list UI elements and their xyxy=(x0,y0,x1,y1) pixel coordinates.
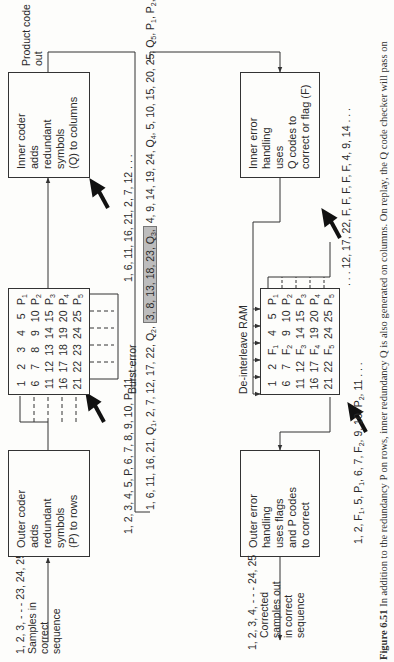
matrix-row: 1617F41920P4 xyxy=(307,291,321,392)
outer-error-handling-box: Outer error handling uses flags and P co… xyxy=(240,450,320,557)
input-sequence: 1, 2, 3, - - - 23, 24, 25 xyxy=(14,594,26,654)
matrix-row: 12345P1 xyxy=(14,291,28,392)
output-label: Corrected samples out in correct sequenc… xyxy=(258,581,306,638)
stream-before: 1, 6, 11, 16, 21, Q1, 2, 7, 12, 17, 22, … xyxy=(144,326,156,510)
matrix-row: 2122F52425P5 xyxy=(321,291,335,392)
after-deinterleave-sequence: 1, 2, F1, 5, P1, 6, 7, F2, 9, 10, P2, 11… xyxy=(352,362,364,544)
matrix-row: 678910P2 xyxy=(28,291,42,392)
product-code-out-label: Product code out xyxy=(20,4,44,66)
matrix-row: 2122232425P5 xyxy=(70,291,84,392)
matrix-row: 1617181920P4 xyxy=(56,291,70,392)
input-label: Samples in correct sequence xyxy=(26,602,62,654)
output-sequence: 1, 2, 3, 4, - - - 24, 25 xyxy=(246,555,258,650)
after-interleave-sequence: 1, 6, 11, 16, 21, 2, 7, 12 . . . xyxy=(122,154,134,282)
figure-number: Figure 6.51 xyxy=(378,609,389,660)
matrix-row: 1112F31415P3 xyxy=(293,291,307,392)
burst-segment: 3, 8, 13, 18, 23, Q3, xyxy=(143,226,157,323)
deinterleave-label: De-interleave RAM xyxy=(237,305,249,394)
product-code-diagram: 1, 2, 3, - - - 23, 24, 25 Samples in cor… xyxy=(0,0,394,662)
matrix-row: 12F145P1 xyxy=(265,291,279,392)
matrix-row: 1112131415P3 xyxy=(42,291,56,392)
channel-stream: 1, 6, 11, 16, 21, Q1, 2, 7, 12, 17, 22, … xyxy=(144,0,156,510)
inner-coder-box: Inner coder adds redundant symbols (Q) t… xyxy=(8,72,90,178)
interleave-matrix: 12345P1 678910P2 1112131415P3 1617181920… xyxy=(8,288,90,395)
figure-caption: Figure 6.51 In addition to the redundanc… xyxy=(378,41,389,660)
stream-after: 4, 9, 14, 19, 24, Q4, 5, 10, 15, 20, 25,… xyxy=(144,0,156,223)
deinterleave-matrix: 12F145P1 67F2910P2 1112F31415P3 1617F419… xyxy=(260,288,340,395)
matrix-row: 67F2910P2 xyxy=(279,291,293,392)
burst-error-label: Burst error xyxy=(126,344,138,394)
after-inner-sequence: . . . 12, 17, 22, F, F, F, F, F, 4, 9, 1… xyxy=(340,108,352,286)
outer-coder-box: Outer coder adds redundant symbols (P) t… xyxy=(8,450,90,557)
caption-text: In addition to the redundancy P on rows,… xyxy=(378,41,389,606)
inner-error-handling-box: Inner error handling uses Q codes to cor… xyxy=(240,72,320,178)
